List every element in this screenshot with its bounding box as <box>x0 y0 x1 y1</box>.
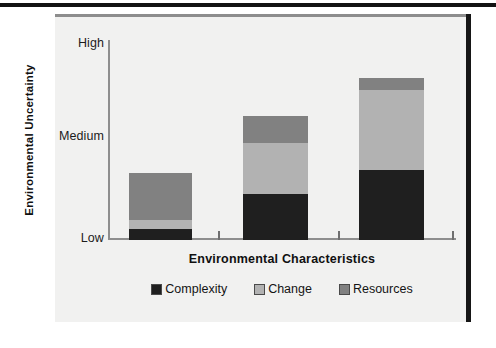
legend-label-complexity: Complexity <box>165 282 227 296</box>
legend-swatch-complexity-icon <box>151 284 162 295</box>
legend-item-complexity[interactable]: Complexity <box>151 282 227 296</box>
stacked-bar-2[interactable] <box>243 116 308 240</box>
bar-3-segment-resources <box>359 78 424 90</box>
bar-3-segment-change <box>359 90 424 170</box>
legend-swatch-change-icon <box>254 284 265 295</box>
bar-3-segment-complexity <box>359 170 424 240</box>
x-axis-title: Environmental Characteristics <box>108 252 456 266</box>
legend-label-resources: Resources <box>353 282 413 296</box>
legend-swatch-resources-icon <box>339 284 350 295</box>
bar-1-segment-complexity <box>129 229 192 240</box>
legend-item-change[interactable]: Change <box>254 282 312 296</box>
bar-2-segment-complexity <box>243 194 308 240</box>
legend-label-change: Change <box>268 282 312 296</box>
stacked-bar-1[interactable] <box>129 173 192 240</box>
stacked-bar-3[interactable] <box>359 78 424 240</box>
bars-layer <box>0 0 496 240</box>
bar-2-segment-change <box>243 143 308 194</box>
bar-1-segment-resources <box>129 173 192 220</box>
chart-legend: Complexity Change Resources <box>108 282 456 296</box>
legend-item-resources[interactable]: Resources <box>339 282 413 296</box>
bar-1-segment-change <box>129 220 192 229</box>
bar-2-segment-resources <box>243 116 308 143</box>
